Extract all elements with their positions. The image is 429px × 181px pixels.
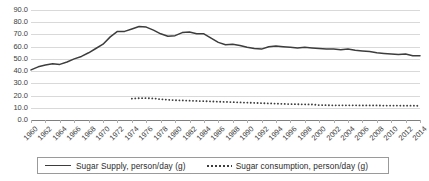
legend-item-sugar-consumption: Sugar consumption, person/day (g) bbox=[206, 161, 368, 171]
series-lines bbox=[31, 10, 420, 120]
x-tick-mark-1990 bbox=[247, 120, 248, 123]
x-tick-mark-1982 bbox=[190, 120, 191, 123]
x-tick-mark-1986 bbox=[218, 120, 219, 123]
x-tick-mark-2014 bbox=[420, 120, 421, 123]
y-tick-label-90: 90.0 bbox=[13, 6, 28, 14]
x-tick-mark-2008 bbox=[377, 120, 378, 123]
legend-label-sugar-consumption: Sugar consumption, person/day (g) bbox=[236, 161, 368, 171]
x-tick-mark-1964 bbox=[60, 120, 61, 123]
x-tick-mark-1980 bbox=[175, 120, 176, 123]
x-axis-labels: 1960196219641966196819701972197419761978… bbox=[0, 120, 426, 160]
y-tick-label-50: 50.0 bbox=[13, 55, 28, 63]
x-tick-mark-1992 bbox=[262, 120, 263, 123]
y-axis-labels: 0.010.020.030.040.050.060.070.080.090.0 bbox=[0, 0, 31, 130]
x-tick-mark-2004 bbox=[348, 120, 349, 123]
x-tick-mark-1966 bbox=[74, 120, 75, 123]
chart-legend: Sugar Supply, person/day (g) Sugar consu… bbox=[37, 157, 389, 174]
x-tick-mark-1968 bbox=[89, 120, 90, 123]
solid-line-swatch bbox=[45, 165, 71, 166]
series-path-sugar-supply bbox=[31, 27, 420, 70]
x-tick-mark-2010 bbox=[391, 120, 392, 123]
x-tick-label-2014: 2014 bbox=[411, 125, 428, 142]
x-tick-mark-1984 bbox=[204, 120, 205, 123]
x-tick-mark-1962 bbox=[45, 120, 46, 123]
x-tick-mark-2006 bbox=[362, 120, 363, 123]
y-tick-label-40: 40.0 bbox=[13, 67, 28, 75]
x-tick-mark-2012 bbox=[406, 120, 407, 123]
legend-item-sugar-supply: Sugar Supply, person/day (g) bbox=[45, 161, 186, 171]
x-tick-mark-1998 bbox=[305, 120, 306, 123]
y-tick-label-70: 70.0 bbox=[13, 30, 28, 38]
x-tick-mark-1960 bbox=[31, 120, 32, 123]
series-path-sugar-consumption bbox=[132, 98, 420, 106]
dotted-line-swatch bbox=[206, 165, 232, 167]
y-tick-label-10: 10.0 bbox=[13, 104, 28, 112]
y-tick-label-20: 20.0 bbox=[13, 92, 28, 100]
x-tick-mark-2000 bbox=[319, 120, 320, 123]
y-tick-label-30: 30.0 bbox=[13, 79, 28, 87]
plot-area bbox=[31, 10, 420, 120]
x-tick-mark-1994 bbox=[276, 120, 277, 123]
x-tick-mark-1974 bbox=[132, 120, 133, 123]
y-tick-label-60: 60.0 bbox=[13, 43, 28, 51]
x-tick-mark-1988 bbox=[233, 120, 234, 123]
x-tick-mark-1970 bbox=[103, 120, 104, 123]
legend-label-sugar-supply: Sugar Supply, person/day (g) bbox=[76, 161, 186, 171]
x-tick-mark-1972 bbox=[117, 120, 118, 123]
x-tick-mark-1996 bbox=[290, 120, 291, 123]
x-tick-mark-1976 bbox=[146, 120, 147, 123]
y-tick-label-80: 80.0 bbox=[13, 18, 28, 26]
x-tick-mark-1978 bbox=[161, 120, 162, 123]
x-tick-mark-2002 bbox=[334, 120, 335, 123]
